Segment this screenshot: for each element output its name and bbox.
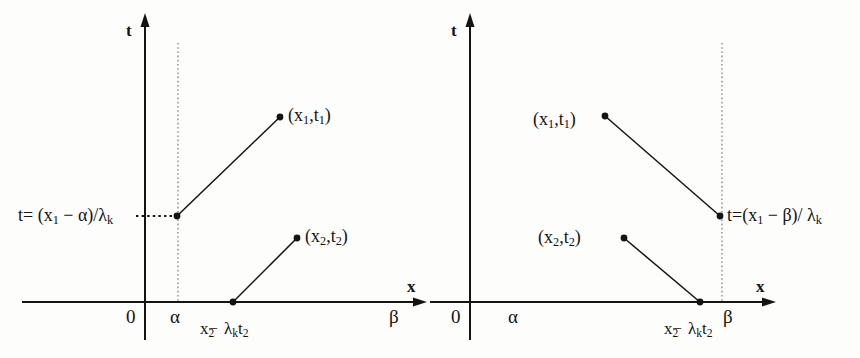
tick-label-beta: β <box>389 307 399 326</box>
xexpr-minus: − <box>208 319 218 338</box>
point-label-x2-t2: (x2,t2) <box>305 227 348 245</box>
tick-label-beta: β <box>723 307 733 326</box>
characteristic-line-2 <box>624 238 700 302</box>
foot-point-expression: x2−λkt2 <box>200 320 248 337</box>
plabel-mid: ,t <box>326 226 336 246</box>
equation-prefix: t=(x <box>727 205 757 225</box>
xexpr-t-sub: 2 <box>243 327 249 340</box>
plabel-open: (x <box>305 226 320 246</box>
xexpr-lambda: λ <box>688 319 696 338</box>
xexpr-minus: − <box>672 319 682 338</box>
characteristic-line-2 <box>233 238 297 302</box>
left-panel-vector-graphics <box>0 0 430 358</box>
plabel-open: (x <box>533 109 548 129</box>
point-marker-x2-t2 <box>294 235 301 242</box>
t-axis-left <box>141 13 150 340</box>
plabel-mid: ,t <box>309 105 319 125</box>
equation-label-t-characteristic: t= (x1 − α)/λk <box>18 206 113 224</box>
plabel-mid: ,t <box>554 109 564 129</box>
diagram-panel-right: t x 0 α β t=(x1 − β)/ λk (x1,t1) (x2,t2)… <box>430 0 860 358</box>
xexpr-lambda: λ <box>224 319 232 338</box>
plabel-open: (x <box>538 227 553 247</box>
plabel-close: ) <box>575 227 581 247</box>
point-marker-x2-t2 <box>621 235 628 242</box>
plabel-close: ) <box>570 109 576 129</box>
point-label-x1-t1: (x1,t1) <box>533 110 576 128</box>
right-panel-vector-graphics <box>430 0 860 358</box>
boundary-point-marker <box>717 213 724 220</box>
characteristic-line-1 <box>605 116 720 216</box>
t-axis-right <box>466 13 475 340</box>
t-axis-label: t <box>451 22 457 39</box>
x-axis-label: x <box>756 278 765 295</box>
tick-label-alpha: α <box>170 307 180 326</box>
characteristic-line-1 <box>177 117 280 216</box>
plabel-close: ) <box>325 105 331 125</box>
origin-label: 0 <box>451 307 461 326</box>
origin-label: 0 <box>126 307 136 326</box>
foot-point-marker <box>697 299 704 306</box>
figure-root: t x 0 α β t= (x1 − α)/λk (x1,t1) (x2,t2)… <box>0 0 860 358</box>
equation-middle: − β)/ λ <box>763 205 816 225</box>
foot-point-expression: x2−λkt2 <box>664 320 712 337</box>
equation-sub-k: k <box>816 213 822 227</box>
plabel-mid: ,t <box>559 227 569 247</box>
point-marker-x1-t1 <box>277 114 284 121</box>
plabel-close: ) <box>342 226 348 246</box>
boundary-point-marker <box>174 213 181 220</box>
foot-point-marker <box>230 299 237 306</box>
point-label-x1-t1: (x1,t1) <box>288 106 331 124</box>
x-axis-left <box>22 298 427 307</box>
equation-prefix: t= (x <box>18 205 53 225</box>
point-marker-x1-t1 <box>602 113 609 120</box>
t-axis-label: t <box>126 22 132 39</box>
tick-label-alpha: α <box>508 307 518 326</box>
equation-sub-k: k <box>107 213 113 227</box>
equation-middle: − α)/λ <box>59 205 107 225</box>
xexpr-t-sub: 2 <box>707 327 713 340</box>
point-label-x2-t2: (x2,t2) <box>538 228 581 246</box>
plabel-open: (x <box>288 105 303 125</box>
diagram-panel-left: t x 0 α β t= (x1 − α)/λk (x1,t1) (x2,t2)… <box>0 0 430 358</box>
x-axis-label: x <box>407 278 416 295</box>
equation-label-t-characteristic: t=(x1 − β)/ λk <box>727 206 822 224</box>
